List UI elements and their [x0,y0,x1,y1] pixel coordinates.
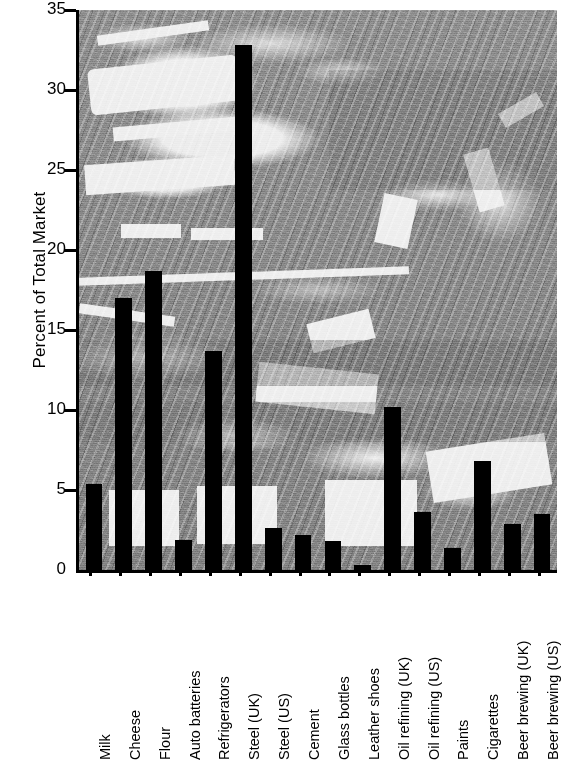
x-axis-tick [328,570,331,576]
y-axis-tick-label: 20 [26,239,66,259]
bar [444,548,461,570]
x-axis-tick [179,570,182,576]
x-axis-tick [478,570,481,576]
x-axis-tick [508,570,511,576]
x-axis-category-label: Steel (UK) [246,693,262,760]
x-axis-tick [239,570,242,576]
x-axis-category-label: Cheese [127,710,143,760]
bar [414,512,431,570]
bar [504,524,521,570]
x-axis-tick [448,570,451,576]
x-axis-category-label: Beer brewing (US) [545,641,561,760]
bar [325,541,342,570]
chart-figure: Percent of Total Market 05101520253035 [0,0,562,767]
x-axis-category-label: Cigarettes [485,694,501,760]
x-axis-category-label: Flour [157,727,173,760]
y-axis-tick-label: 5 [26,479,66,499]
y-axis-tick-label: 25 [26,159,66,179]
bar [115,298,132,570]
bar [534,514,551,570]
bar [86,484,103,570]
x-axis-category-label: Beer brewing (UK) [515,641,531,760]
x-axis-tick [269,570,272,576]
y-axis-tick-label: 10 [26,399,66,419]
bar [474,461,491,570]
y-axis-tick-label: 15 [26,319,66,339]
x-axis-category-label: Auto batteries [187,671,203,760]
x-axis-tick [358,570,361,576]
x-axis-category-label: Oil refining (US) [426,657,442,760]
bar [205,351,222,570]
bar [235,45,252,570]
bar [265,528,282,570]
x-axis-tick [538,570,541,576]
bar [145,271,162,570]
x-axis-tick [149,570,152,576]
plot-area [76,10,557,573]
x-axis-tick [388,570,391,576]
x-axis-tick [89,570,92,576]
y-axis-tick-label: 0 [26,559,66,579]
x-axis-category-label: Refrigerators [216,676,232,760]
x-axis-tick [418,570,421,576]
y-axis-tick-label: 35 [26,0,66,19]
x-axis-tick [299,570,302,576]
x-axis-category-label: Paints [455,720,471,760]
x-axis-category-label: Steel (US) [276,693,292,760]
x-axis-tick [119,570,122,576]
bar [175,540,192,570]
bar [295,535,312,570]
x-axis-category-label: Glass bottles [336,676,352,760]
y-axis-title: Percent of Total Market [30,80,50,480]
x-axis-category-label: Milk [97,734,113,760]
x-axis-category-label: Oil refining (UK) [396,657,412,760]
y-axis-tick-label: 30 [26,79,66,99]
x-axis-category-label: Leather shoes [366,668,382,760]
x-axis-tick [209,570,212,576]
bar [354,565,371,570]
x-axis-category-label: Cement [306,709,322,760]
bar [384,407,401,570]
